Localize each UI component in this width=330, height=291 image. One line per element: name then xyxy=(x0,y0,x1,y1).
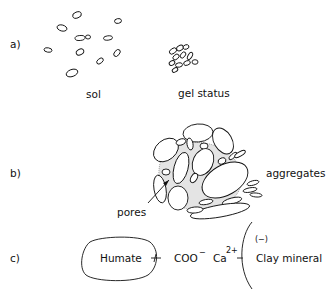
aggregate-grain xyxy=(247,179,260,186)
clay-mineral-label: Clay mineral xyxy=(256,252,322,264)
gel-particle xyxy=(168,60,175,67)
carboxylate-label: COO xyxy=(174,252,198,264)
sol-particle xyxy=(103,35,112,40)
gel-particle xyxy=(175,62,183,68)
gel-status-label: gel status xyxy=(178,87,230,99)
aggregate-cluster xyxy=(149,123,262,222)
clay-charge-label: (−) xyxy=(255,235,268,244)
pores-label: pores xyxy=(117,206,146,218)
sol-particle xyxy=(86,35,91,39)
sol-particle xyxy=(75,35,85,41)
carboxylate-charge: − xyxy=(199,248,206,257)
gel-particle xyxy=(182,44,189,50)
sol-particle xyxy=(44,47,53,53)
calcium-label: Ca xyxy=(213,252,227,264)
sol-particle xyxy=(72,11,83,20)
gel-particle xyxy=(171,67,178,73)
gel-particles xyxy=(168,44,198,73)
panel-a-label: a) xyxy=(10,38,21,50)
gel-particle xyxy=(186,52,193,61)
sol-particle xyxy=(65,68,79,79)
panel-b-label: b) xyxy=(10,167,21,179)
aggregate-grain xyxy=(250,192,262,197)
gel-particle xyxy=(183,60,191,67)
aggregates-label: aggregates xyxy=(266,167,325,179)
clay-surface-arc xyxy=(242,222,252,289)
calcium-charge: 2+ xyxy=(226,246,238,255)
aggregate-grain xyxy=(200,143,208,149)
sol-particle xyxy=(96,57,105,65)
soil-structure-diagram: a) sol gel status b) xyxy=(0,0,330,291)
sol-particle xyxy=(114,18,122,24)
humate-label: Humate xyxy=(100,252,142,264)
panel-c-label: c) xyxy=(10,252,20,264)
aggregate-grain xyxy=(243,187,258,194)
sol-label: sol xyxy=(86,88,101,100)
aggregate-grain xyxy=(162,169,170,175)
sol-particle xyxy=(113,48,122,57)
gel-particle xyxy=(179,51,187,59)
sol-particle xyxy=(75,48,85,57)
sol-particles xyxy=(44,11,122,79)
aggregate-grain xyxy=(234,149,247,159)
gel-particle xyxy=(192,60,198,65)
sol-particle xyxy=(56,24,67,32)
aggregate-grain xyxy=(168,186,188,210)
